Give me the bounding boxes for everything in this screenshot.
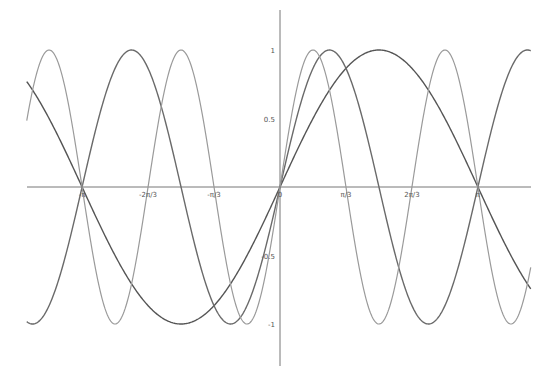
x-tick-label: -2π/3 — [139, 191, 157, 199]
x-tick-label: π/3 — [340, 191, 351, 199]
y-tick-label: 1 — [271, 47, 275, 55]
y-tick-label: -1 — [268, 321, 275, 329]
y-tick-label: 0.5 — [264, 116, 275, 124]
sine-chart: -π-2π/3-π/30π/32π/3π10.5-0.5-1 — [0, 0, 554, 384]
x-tick-label: 0 — [278, 191, 282, 199]
y-tick-label: -0.5 — [261, 253, 275, 261]
x-tick-label: -π/3 — [207, 191, 221, 199]
x-tick-label: -π — [79, 191, 87, 199]
x-tick-label: 2π/3 — [404, 191, 419, 199]
